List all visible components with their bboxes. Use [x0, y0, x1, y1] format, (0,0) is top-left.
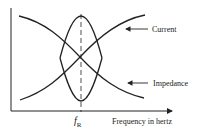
curve-impedance [19, 16, 144, 98]
impedance-label: Impedance [153, 79, 189, 88]
x-axis-label: Frequency in hertz [112, 117, 172, 126]
resonance-diagram: Current Impedance fR Frequency in hertz [0, 0, 211, 136]
current-label: Current [152, 25, 177, 34]
curve-current [20, 15, 145, 100]
resonance-frequency-label: fR [74, 115, 82, 129]
